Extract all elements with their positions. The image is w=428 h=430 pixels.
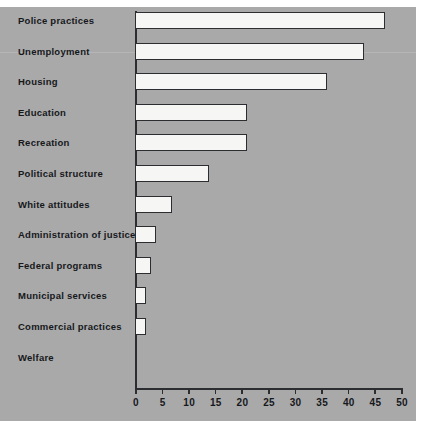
bar [135,134,247,151]
x-axis-tick [401,388,403,394]
bar [135,226,156,243]
x-axis-tick-label: 30 [281,397,311,408]
x-axis-tick-label: 20 [227,397,257,408]
bar-chart-figure: Police practicesUnemploymentHousingEduca… [0,7,416,421]
bar [135,73,327,90]
x-axis-tick [135,388,137,394]
bar [135,165,209,182]
bar [135,196,172,213]
bar [135,104,247,121]
x-axis-tick-label: 50 [387,397,417,408]
x-axis-tick-label: 40 [334,397,364,408]
bar [135,287,146,304]
x-axis-tick [348,388,350,394]
x-axis-tick-label: 25 [254,397,284,408]
x-axis-tick-label: 35 [307,397,337,408]
x-axis-tick-label: 15 [201,397,231,408]
x-axis-tick [215,388,217,394]
x-axis-tick [374,388,376,394]
x-axis-tick [162,388,164,394]
bar [135,257,151,274]
x-axis-tick-label: 5 [148,397,178,408]
bar [135,12,385,29]
x-axis-tick-label: 10 [174,397,204,408]
x-axis-tick [295,388,297,394]
x-axis-tick [321,388,323,394]
x-axis-tick [188,388,190,394]
x-axis-tick-label: 45 [360,397,390,408]
plot-area: 05101520253035404550 [0,7,416,421]
bar [135,43,364,60]
x-axis-tick-label: 0 [121,397,151,408]
x-axis-tick [268,388,270,394]
bar [135,318,146,335]
x-axis-tick [241,388,243,394]
